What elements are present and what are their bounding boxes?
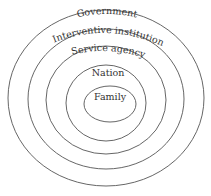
label-government: Government (76, 5, 139, 20)
label-nation: Nation (92, 67, 125, 78)
label-family: Family (94, 91, 127, 102)
label-service-agency: Service agency (70, 42, 147, 60)
nested-ellipse-diagram: Government Interventive institution Serv… (0, 0, 211, 196)
